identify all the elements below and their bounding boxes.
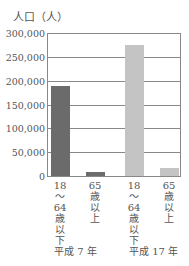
y-tick-label: 250,000 — [6, 51, 45, 62]
y-axis-label: 人口（人） — [13, 8, 68, 24]
gridline — [48, 81, 180, 82]
y-tick-label: 50,000 — [12, 147, 45, 158]
x-category-label: 18〜64歳以下 — [124, 180, 144, 246]
y-tick-label: 150,000 — [6, 99, 45, 110]
bar — [160, 168, 179, 176]
x-category-label: 18〜64歳以下 — [50, 180, 70, 246]
y-tick-label: 100,000 — [6, 123, 45, 134]
y-tick-label: 0 — [39, 171, 45, 182]
bar — [125, 45, 144, 176]
gridline — [48, 57, 180, 58]
x-axis-baseline — [47, 176, 181, 177]
y-tick-label: 200,000 — [6, 75, 45, 86]
x-category-label: 65歳以上 — [159, 180, 179, 224]
plot-area — [47, 33, 181, 176]
x-category-label: 65歳以上 — [85, 180, 105, 224]
bar — [51, 86, 70, 176]
y-tick-label: 300,000 — [6, 28, 45, 39]
group-label-heisei-17: 平成 17 年 — [129, 243, 178, 258]
group-label-heisei-7: 平成 7 年 — [54, 243, 97, 258]
